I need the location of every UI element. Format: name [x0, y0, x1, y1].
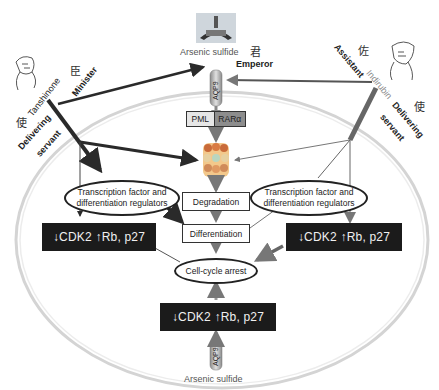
- minister-cjk: 臣: [70, 62, 81, 78]
- right-oval-line2: differentiation regulators: [263, 198, 354, 209]
- left-transcription-oval: Transcription factor anddifferentiation …: [64, 180, 180, 216]
- emperor-cjk: 君: [250, 43, 261, 59]
- degradation-box: Degradation: [182, 192, 250, 211]
- servant-right-cjk: 使: [414, 98, 425, 114]
- assistant-cjk: 佐: [358, 42, 369, 58]
- cell-cycle-arrest-oval: Cell-cycle arrest: [174, 258, 258, 284]
- cdk-box-right: ↓CDK2 ↑Rb, p27: [286, 223, 402, 251]
- cdk-box-left: ↓CDK2 ↑Rb, p27: [42, 223, 156, 251]
- differentiation-box: Differentiation: [182, 224, 250, 243]
- assistant-figure-icon: [390, 42, 414, 80]
- aqp9-bottom-label: AQP9: [212, 347, 219, 366]
- rara-label: RARα: [215, 112, 245, 126]
- right-transcription-oval: Transcription factor anddifferentiation …: [250, 180, 368, 216]
- arsenic-sulfide-top-label: Arsenic sulfide: [180, 47, 239, 57]
- cell-cycle-arrest-label: Cell-cycle arrest: [186, 266, 247, 277]
- right-oval-line1: Transcription factor and: [263, 187, 354, 198]
- proteasome-icon: [203, 143, 229, 177]
- left-oval-line1: Transcription factor and: [76, 187, 167, 198]
- pml-rara-fusion: PML RARα: [186, 111, 246, 127]
- emperor-label: Emperor: [236, 59, 273, 69]
- temple-icon: [196, 13, 236, 43]
- servant-left-cjk: 使: [16, 114, 27, 130]
- arsenic-sulfide-bottom-label: Arsenic sulfide: [184, 374, 243, 384]
- minister-figure-icon: [16, 57, 36, 90]
- cdk-box-bottom: ↓CDK2 ↑Rb, p27: [160, 303, 276, 331]
- aqp9-top-label: AQP9: [212, 81, 219, 100]
- pml-label: PML: [187, 112, 215, 126]
- left-oval-line2: differentiation regulators: [76, 198, 167, 209]
